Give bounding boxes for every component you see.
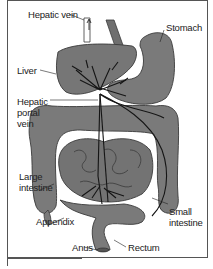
label-stomach: Stomach: [166, 22, 202, 33]
label-appendix: Appendix: [36, 216, 74, 227]
label-anus: Anus: [72, 242, 93, 253]
digestive-system-illustration: [0, 0, 213, 269]
label-hepatic-vein: Hepatic vein: [28, 9, 78, 20]
label-rectum: Rectum: [128, 242, 160, 253]
label-small-intestine-line2: intestine: [169, 217, 203, 228]
label-hepatic-portal-vein-line2: portal: [17, 107, 40, 118]
label-hepatic-portal-vein-line1: Hepatic: [17, 96, 48, 107]
label-large-intestine-line1: Large: [19, 171, 42, 182]
label-liver: Liver: [17, 65, 37, 76]
label-large-intestine-line2: intestine: [19, 182, 53, 193]
label-small-intestine-line1: Small: [169, 206, 192, 217]
label-hepatic-portal-vein-line3: vein: [17, 118, 34, 129]
anus: [97, 248, 109, 252]
